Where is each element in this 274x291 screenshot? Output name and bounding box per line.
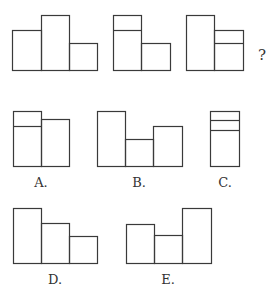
figure-1 (13, 16, 98, 71)
block-rect (42, 16, 70, 71)
option-label: A. (33, 175, 48, 190)
option-e[interactable]: E. (127, 209, 212, 288)
option-a[interactable]: A. (14, 112, 70, 191)
block-rect (215, 31, 244, 71)
block-rect (14, 209, 42, 264)
option-d[interactable]: D. (14, 209, 98, 288)
block-rect (142, 44, 171, 71)
block-rect (14, 112, 42, 167)
option-c[interactable]: C. (211, 112, 240, 191)
figure-2 (114, 16, 171, 71)
block-rect (98, 112, 126, 167)
block-rect (70, 44, 98, 71)
option-label: E. (161, 272, 175, 287)
option-label: B. (132, 175, 146, 190)
question-mark: ? (258, 46, 266, 64)
figure-3 (187, 16, 244, 71)
option-b[interactable]: B. (98, 112, 183, 191)
option-label: D. (48, 272, 62, 287)
block-rect (187, 16, 215, 71)
block-rect (114, 16, 142, 71)
block-rect (42, 120, 70, 167)
option-label: C. (218, 175, 232, 190)
block-rect (127, 225, 155, 264)
block-rect (211, 112, 240, 167)
sequence-row (13, 16, 244, 71)
block-rect (183, 209, 212, 264)
block-rect (13, 31, 42, 71)
block-rect (154, 127, 183, 167)
block-rect (42, 224, 70, 264)
block-rect (155, 236, 183, 264)
block-rect (70, 237, 98, 264)
block-rect (126, 140, 154, 167)
puzzle-canvas: ? A.B.C.D.E. (0, 0, 274, 291)
answer-options: A.B.C.D.E. (14, 112, 240, 288)
